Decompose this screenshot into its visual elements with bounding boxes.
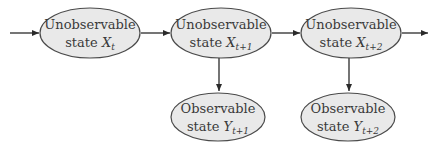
node-unobservable-x-t2: Unobservable state Xt+2: [301, 8, 401, 58]
hmm-diagram: Unobservable state Xt Unobservable state…: [0, 0, 431, 143]
node-observable-y-t2: Observable state Yt+2: [301, 93, 395, 141]
node-label-line2: state Xt: [65, 35, 115, 52]
node-label-line1: Unobservable: [44, 17, 136, 32]
node-label-line1: Unobservable: [175, 17, 267, 32]
node-label-line1: Unobservable: [305, 17, 397, 32]
node-label-line1: Observable: [311, 101, 386, 116]
node-observable-y-t1: Observable state Yt+1: [171, 93, 265, 141]
node-unobservable-x-t1: Unobservable state Xt+1: [171, 8, 271, 58]
node-label-line1: Observable: [181, 101, 256, 116]
node-unobservable-x-t: Unobservable state Xt: [40, 8, 140, 58]
